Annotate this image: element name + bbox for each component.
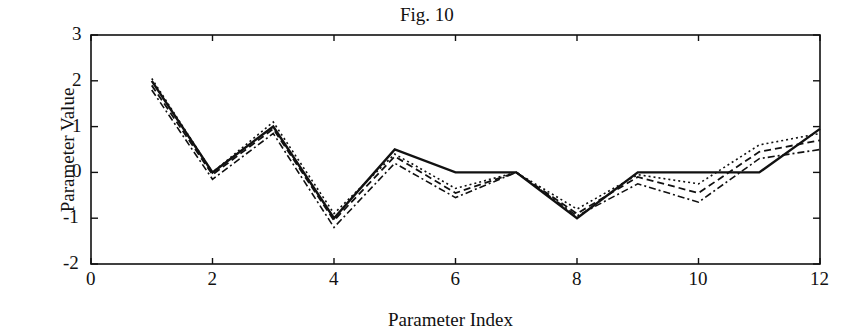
line-chart (0, 0, 841, 335)
series-line-dash-dot (152, 90, 820, 227)
y-tick-label: 1 (72, 115, 82, 137)
y-tick-label: -2 (63, 252, 79, 274)
plot-axes (91, 35, 820, 264)
x-tick-label: 12 (810, 268, 829, 290)
series-line-dashed (152, 85, 820, 220)
series-line-solid (152, 81, 820, 218)
plot-frame (91, 35, 820, 264)
x-tick-label: 0 (86, 268, 96, 290)
y-tick-label: 2 (72, 69, 82, 91)
x-tick-label: 2 (208, 268, 218, 290)
y-tick-label: 3 (72, 23, 82, 45)
y-tick-label: 0 (72, 160, 82, 182)
x-tick-label: 4 (329, 268, 339, 290)
x-tick-label: 8 (572, 268, 582, 290)
x-tick-label: 10 (689, 268, 708, 290)
plot-series (152, 79, 820, 228)
series-line-dotted (152, 79, 820, 214)
x-tick-label: 6 (451, 268, 461, 290)
y-tick-label: -1 (63, 206, 79, 228)
